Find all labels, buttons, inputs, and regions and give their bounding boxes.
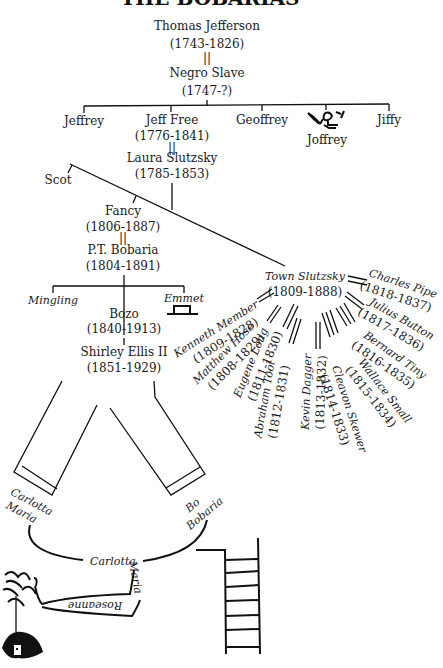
pt-bobaria-dates: (1804-1891): [86, 259, 161, 273]
scot-name: Scot: [45, 173, 72, 187]
maria-arm-label: Maria: [126, 559, 145, 595]
laura-slutzsky-name: Laura Slutzsky: [127, 151, 218, 165]
child-emmet: Emmet: [163, 292, 204, 305]
child-jeff-free: Jeff Free: [144, 113, 199, 127]
cropped-title: THE BOBARIAS: [120, 0, 299, 10]
svg-text:Roseanne: Roseanne: [67, 599, 123, 612]
child-joffrey: Joffrey: [305, 133, 347, 147]
family-tree-diagram: THE BOBARIAS Thomas Jefferson (1743-1826…: [0, 0, 443, 668]
thomas-jefferson-name: Thomas Jefferson: [154, 19, 260, 33]
fancy-name: Fancy: [105, 204, 141, 218]
svg-text:Kevin Dagger: Kevin Dagger: [299, 353, 315, 431]
roseanne-arm-label: Roseanne: [67, 599, 123, 612]
child-geoffrey: Geoffrey: [236, 113, 288, 127]
right-leg-label: Bo Bobaria: [174, 484, 226, 533]
house-icon: [2, 632, 43, 659]
legs-drawing: [14, 381, 205, 495]
shirley-ellis-name: Shirley Ellis II: [81, 345, 168, 359]
bozo-dates: (1840-1913): [87, 322, 162, 336]
svg-text:Maria: Maria: [126, 559, 145, 595]
negro-slave-name: Negro Slave: [169, 66, 244, 80]
town-slutzsky-name: Town Slutzsky: [265, 270, 346, 283]
town-slutzsky-dates: (1809-1888): [268, 285, 343, 299]
thomas-jefferson-dates: (1743-1826): [170, 37, 245, 51]
stick-figure-icon: [308, 111, 344, 128]
child-mingling: Mingling: [27, 294, 78, 307]
marriage-symbol: ||: [203, 51, 211, 65]
shirley-ellis-dates: (1851-1929): [87, 361, 162, 375]
laura-slutzsky-dates: (1785-1853): [135, 167, 210, 181]
pt-bobaria-name: P.T. Bobaria: [88, 243, 159, 257]
negro-slave-dates: (1747-?): [182, 84, 232, 98]
child-jiffy: Jiffy: [375, 113, 401, 127]
ladder-drawing: [196, 538, 260, 654]
child-jeffrey: Jeffrey: [62, 114, 104, 128]
hat-icon: [167, 306, 198, 314]
child-bozo: Bozo: [109, 307, 139, 321]
